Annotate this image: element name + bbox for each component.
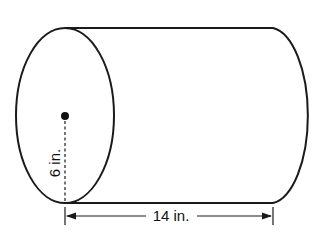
cylinder-body <box>65 28 308 203</box>
cylinder-diagram: 6 in. 14 in. <box>0 0 321 237</box>
radius-label: 6 in. <box>46 149 63 177</box>
arrow-right-icon <box>262 213 272 220</box>
arrow-left-icon <box>66 213 76 220</box>
center-point <box>61 112 69 120</box>
length-label: 14 in. <box>153 207 190 224</box>
